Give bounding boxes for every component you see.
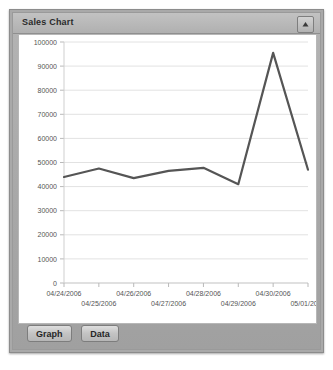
panel-toolbar: Graph Data xyxy=(13,319,320,349)
panel-title: Sales Chart xyxy=(22,17,74,27)
y-tick-label: 10000 xyxy=(38,256,58,263)
graph-button[interactable]: Graph xyxy=(27,325,72,342)
x-tick-label: 05/01/2006 xyxy=(290,300,316,307)
x-tick-label: 04/25/2006 xyxy=(81,300,116,307)
y-tick-label: 90000 xyxy=(38,63,58,70)
x-tick-label: 04/30/2006 xyxy=(256,290,291,297)
x-tick-label: 04/24/2006 xyxy=(46,290,81,297)
x-tick-label: 04/26/2006 xyxy=(116,290,151,297)
collapse-arrow-glyph xyxy=(301,20,310,29)
x-tick-label: 04/28/2006 xyxy=(186,290,221,297)
x-tick-label: 04/27/2006 xyxy=(151,300,186,307)
chart-series-line xyxy=(64,53,308,184)
screenshot-root: Sales Chart 0100002000030000400005000060… xyxy=(0,0,333,370)
sales-chart-panel: Sales Chart 0100002000030000400005000060… xyxy=(9,9,324,353)
y-tick-label: 60000 xyxy=(38,135,58,142)
chart-canvas: 0100002000030000400005000060000700008000… xyxy=(18,34,317,324)
chart-axes xyxy=(64,42,308,287)
y-tick-label: 50000 xyxy=(38,159,58,166)
collapse-up-icon[interactable] xyxy=(297,16,314,33)
y-tick-label: 30000 xyxy=(38,207,58,214)
y-tick-label: 100000 xyxy=(34,39,57,46)
panel-inner: Sales Chart 0100002000030000400005000060… xyxy=(12,12,321,350)
line-chart: 0100002000030000400005000060000700008000… xyxy=(19,35,316,323)
y-tick-label: 40000 xyxy=(38,183,58,190)
series-sales xyxy=(64,53,308,184)
data-button[interactable]: Data xyxy=(81,325,119,342)
chart-y-tick-labels: 0100002000030000400005000060000700008000… xyxy=(34,39,57,287)
x-tick-label: 04/29/2006 xyxy=(221,300,256,307)
chart-x-tick-labels: 04/24/200604/25/200604/26/200604/27/2006… xyxy=(46,290,316,307)
y-tick-label: 20000 xyxy=(38,231,58,238)
panel-titlebar: Sales Chart xyxy=(13,13,320,34)
chart-gridlines xyxy=(60,42,308,283)
y-tick-label: 80000 xyxy=(38,87,58,94)
y-tick-label: 0 xyxy=(53,280,57,287)
y-tick-label: 70000 xyxy=(38,111,58,118)
